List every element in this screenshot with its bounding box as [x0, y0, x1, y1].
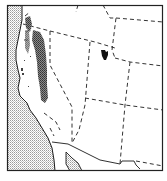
range-map — [0, 0, 167, 181]
map-canvas — [0, 0, 167, 181]
